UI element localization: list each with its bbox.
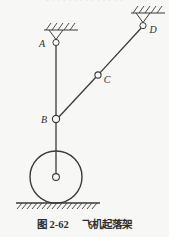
support-a-hatching (46, 23, 75, 30)
label-b: B (41, 114, 47, 125)
support-d-pin (140, 23, 146, 29)
support-d-hatching (133, 6, 162, 13)
joint-b (52, 115, 59, 122)
figure-page: · · · · · · · · · · · · · · (0, 0, 169, 237)
support-a-triangle (49, 30, 63, 40)
figure-caption-title: 飞机起落架 (82, 219, 132, 230)
ground (16, 203, 100, 209)
label-a: A (38, 38, 46, 49)
bar-cd (100, 28, 141, 72)
figure-caption: 图 2-62 飞机起落架 (0, 216, 169, 231)
support-a-pin (53, 39, 59, 45)
label-d: D (148, 24, 157, 35)
label-c: C (104, 74, 111, 85)
support-d-triangle (136, 13, 150, 23)
landing-gear-diagram: A B C D (0, 0, 169, 216)
support-a (44, 23, 78, 46)
wheel-hub (53, 174, 60, 181)
joint-c (95, 72, 101, 78)
ground-hatching (17, 203, 97, 209)
bar-bc (59, 78, 96, 118)
support-d (131, 6, 165, 29)
figure-caption-number: 图 2-62 (37, 219, 69, 230)
